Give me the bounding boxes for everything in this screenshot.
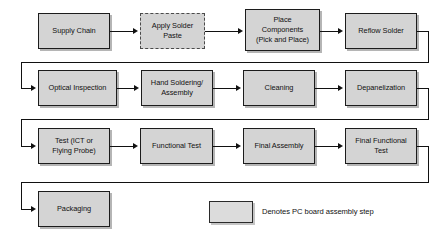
arrow-icon	[31, 85, 36, 91]
node-packaging[interactable]: Packaging	[38, 191, 110, 227]
arrow-icon	[31, 206, 36, 212]
node-label: Cleaning	[246, 83, 312, 93]
node-label: Functional Test	[143, 141, 210, 151]
arrow-icon	[238, 28, 243, 34]
arrow-icon	[133, 28, 138, 34]
edge-row2-entry-down	[21, 62, 22, 89]
node-label-line-2: Test	[348, 146, 414, 156]
edge-row1-down	[428, 31, 429, 63]
arrow-icon	[338, 85, 343, 91]
node-label: Packaging	[41, 204, 107, 214]
node-label-line-1: Apply Solder	[143, 21, 202, 31]
node-optical-inspection[interactable]: Optical Inspection	[38, 70, 117, 106]
node-label-line-1: Test (ICT or	[41, 136, 107, 146]
edge-cleaning-to-depanelization	[315, 88, 339, 89]
node-reflow-solder[interactable]: Reflow Solder	[345, 13, 417, 49]
edge-row3-down	[428, 146, 429, 182]
edge-row3-to-row4-return	[21, 182, 429, 183]
node-label-line-3: (Pick and Place)	[248, 35, 317, 45]
node-label-line-2: Paste	[143, 31, 202, 41]
flowchart-diagram: Supply Chain Apply Solder Paste Place Co…	[0, 0, 448, 245]
arrow-icon	[236, 143, 241, 149]
arrow-icon	[134, 85, 139, 91]
arrow-icon	[338, 143, 343, 149]
node-label-line-2: Flying Probe)	[41, 146, 107, 156]
node-final-assembly[interactable]: Final Assembly	[243, 128, 315, 164]
edge-row2-down	[428, 88, 429, 120]
node-label-line-2: Assembly	[144, 88, 210, 98]
edge-hand-soldering-to-cleaning	[213, 88, 237, 89]
edge-apply-solder-paste-to-place-components	[205, 31, 239, 32]
node-label: Optical Inspection	[41, 83, 114, 93]
node-label-line-1: Hand Soldering/	[144, 78, 210, 88]
node-label-line-1: Final Functional	[348, 136, 414, 146]
edge-place-components-to-reflow-solder	[320, 31, 339, 32]
node-test-ict-flying-probe[interactable]: Test (ICT or Flying Probe)	[38, 128, 110, 164]
legend-label: Denotes PC board assembly step	[262, 207, 374, 216]
node-depanelization[interactable]: Depanelization	[345, 70, 417, 106]
arrow-icon	[31, 143, 36, 149]
node-label: Depanelization	[348, 83, 414, 93]
edge-functional-test-to-final-assembly	[213, 146, 237, 147]
node-supply-chain[interactable]: Supply Chain	[38, 13, 110, 49]
edge-row3-entry-down	[21, 119, 22, 147]
edge-supply-chain-to-apply-solder-paste	[110, 31, 134, 32]
node-cleaning[interactable]: Cleaning	[243, 70, 315, 106]
arrow-icon	[236, 85, 241, 91]
node-hand-soldering-assembly[interactable]: Hand Soldering/ Assembly	[141, 70, 213, 106]
node-functional-test[interactable]: Functional Test	[140, 128, 213, 164]
node-label-line-1: Place	[248, 15, 317, 25]
node-final-functional-test[interactable]: Final Functional Test	[345, 128, 417, 164]
edge-final-assembly-to-final-functional-test	[315, 146, 339, 147]
edge-row4-entry-down	[21, 182, 22, 210]
assembly-step-swatch	[209, 201, 253, 223]
node-place-components[interactable]: Place Components (Pick and Place)	[245, 9, 320, 51]
arrow-icon	[133, 143, 138, 149]
edge-test-to-functional-test	[110, 146, 134, 147]
arrow-icon	[338, 28, 343, 34]
node-label: Final Assembly	[246, 141, 312, 151]
node-label: Supply Chain	[41, 26, 107, 36]
edge-row1-to-row2-return	[21, 62, 429, 63]
node-label: Reflow Solder	[348, 26, 414, 36]
node-apply-solder-paste[interactable]: Apply Solder Paste	[140, 13, 205, 49]
node-label-line-2: Components	[248, 25, 317, 35]
edge-optical-inspection-to-hand-soldering	[117, 88, 135, 89]
edge-row2-to-row3-return	[21, 119, 429, 120]
